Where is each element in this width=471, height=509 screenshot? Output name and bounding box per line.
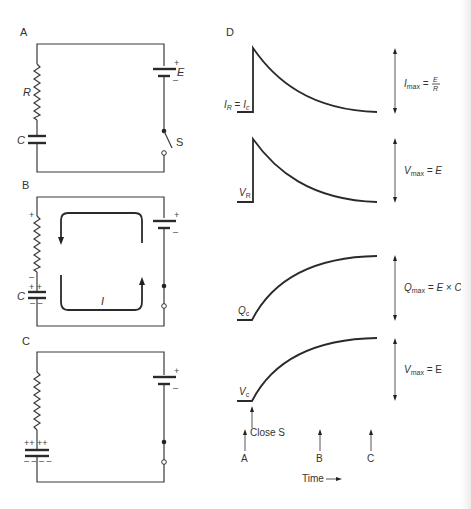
arrow-up-icon — [250, 406, 254, 412]
resistor-minus: – — [29, 272, 34, 282]
range-label: Qmax = E × C — [404, 282, 462, 294]
arrow-up-icon — [318, 429, 322, 435]
battery-plus: + — [174, 210, 179, 220]
switch-lever-icon — [164, 131, 172, 148]
arrow-up-icon — [393, 138, 397, 144]
graph-capacitor-voltage: Vc Vmax = E — [237, 338, 442, 401]
arrow-up-icon — [393, 48, 397, 54]
resistor-voltage-decay-curve — [237, 139, 377, 202]
time-marker-label: B — [316, 453, 323, 464]
fraction-denominator: R — [433, 85, 438, 92]
battery-label: E — [177, 66, 185, 78]
time-marker-label: A — [241, 453, 248, 464]
range-label: Vmax = E — [404, 165, 442, 177]
arrow-down-icon — [58, 237, 64, 245]
switch-contact — [162, 151, 167, 156]
page-edge-shadow — [461, 0, 471, 509]
time-axis-label: Time — [302, 473, 324, 484]
panel-c-label: C — [22, 335, 30, 347]
panel-d: D IR = Ic Imax = E R VR Vmax = E Qc — [224, 26, 462, 484]
capacitor-label: C — [17, 290, 25, 302]
current-loop-top-arrow — [61, 213, 142, 243]
capacitor-bottom-charge: – – – – — [24, 456, 52, 466]
curve-label: VR — [239, 187, 251, 199]
arrow-up-icon — [393, 338, 397, 344]
panel-a-label: A — [20, 26, 28, 38]
rc-circuit-figure: A R C + – E S B + – + + — [0, 0, 471, 509]
capacitor-charge-growth-curve — [237, 256, 377, 320]
capacitor-top-charge: + + — [29, 282, 42, 292]
battery-plus: + — [174, 366, 179, 376]
resistor-icon — [34, 64, 40, 120]
arrow-up-icon — [369, 429, 373, 435]
capacitor-voltage-growth-curve — [237, 338, 377, 401]
wire-top — [37, 197, 164, 218]
close-switch-label: Close S — [250, 427, 285, 438]
arrow-up-icon — [393, 255, 397, 261]
arrow-down-icon — [393, 315, 397, 321]
fraction-numerator: E — [433, 76, 438, 83]
capacitor-top-charge: ++ ++ — [24, 438, 48, 448]
curve-label: Vc — [239, 386, 250, 398]
graph-resistor-voltage: VR Vmax = E — [237, 138, 442, 203]
panel-a: A R C + – E S — [17, 26, 185, 172]
resistor-icon — [34, 216, 40, 272]
panel-c: C ++ ++ – – – – + – — [22, 335, 179, 482]
switch-pivot — [162, 440, 167, 445]
resistor-icon — [34, 372, 40, 430]
graph-capacitor-charge: Qc Qmax = E × C — [237, 255, 462, 321]
panel-b-label: B — [22, 179, 29, 191]
curve-label: IR = Ic — [224, 99, 250, 111]
wire-top — [37, 44, 164, 66]
arrow-down-icon — [393, 395, 397, 401]
battery-minus: – — [173, 383, 178, 393]
panel-d-label: D — [226, 26, 234, 38]
range-label: Imax = — [404, 78, 429, 90]
arrow-right-icon — [336, 477, 342, 481]
arrow-down-icon — [393, 197, 397, 203]
wire-bottom — [37, 455, 164, 482]
switch-pivot — [162, 284, 167, 289]
arrow-up-icon — [139, 277, 145, 285]
resistor-plus: + — [29, 210, 34, 220]
time-marker-c: C — [367, 429, 374, 464]
time-marker-a: A — [241, 429, 248, 464]
curve-label: Qc — [238, 305, 250, 317]
switch-label: S — [176, 136, 183, 148]
wire-top — [37, 352, 164, 375]
battery-minus: – — [173, 227, 178, 237]
capacitor-label: C — [17, 134, 25, 146]
panel-b: B + – + + – – C + – I — [17, 179, 179, 326]
range-label: Vmax = E — [404, 364, 442, 376]
capacitor-bottom-charge: – – — [30, 298, 43, 308]
time-marker-b: B — [316, 429, 323, 464]
time-marker-label: C — [367, 453, 374, 464]
arrow-down-icon — [393, 108, 397, 114]
arrow-up-icon — [243, 429, 247, 435]
current-label: I — [101, 295, 104, 307]
switch-contact — [162, 460, 167, 465]
current-decay-curve — [237, 48, 377, 112]
wire-bottom — [37, 144, 164, 172]
resistor-label: R — [23, 86, 31, 98]
switch-contact — [162, 304, 167, 309]
graph-current: IR = Ic Imax = E R — [224, 48, 440, 114]
